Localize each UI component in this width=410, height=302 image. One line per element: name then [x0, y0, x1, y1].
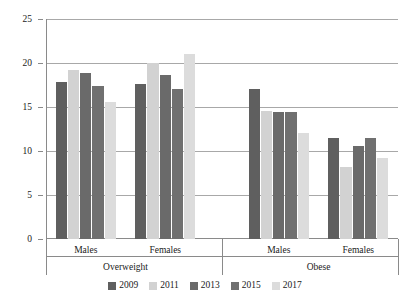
bar-2009-males-0: [56, 82, 67, 239]
y-axis-tick-label: 25: [23, 14, 33, 24]
x-axis-category-label: Males: [239, 245, 319, 255]
legend-swatch-icon: [149, 282, 157, 290]
y-axis-tick-label: 20: [23, 58, 33, 68]
x-axis-category-label: Females: [126, 245, 206, 255]
grouped-bar-chart: 0510152025 MalesFemalesMalesFemalesOverw…: [0, 0, 410, 302]
bar-2013-males-2: [273, 112, 284, 239]
y-axis-tick-mark: [38, 63, 43, 64]
bars-layer: [46, 19, 398, 239]
bar-2011-males-2: [261, 111, 272, 239]
y-axis-tick-mark: [38, 195, 43, 196]
legend-label: 2011: [160, 281, 179, 291]
legend-item-2009[interactable]: 2009: [108, 281, 138, 291]
x-axis-section-label: Obese: [239, 262, 398, 272]
bar-2017-males-2: [298, 133, 309, 239]
y-axis-tick-mark: [38, 151, 43, 152]
y-axis-tick-mark: [38, 239, 43, 240]
bar-2015-males-2: [285, 112, 296, 239]
axis-row-rule: [46, 256, 398, 257]
legend-label: 2017: [283, 281, 302, 291]
legend-item-2013[interactable]: 2013: [190, 281, 220, 291]
bar-2015-females-3: [365, 138, 376, 239]
legend-swatch-icon: [190, 282, 198, 290]
bar-2013-females-1: [160, 75, 171, 239]
y-axis-tick-mark: [38, 107, 43, 108]
bar-2015-females-1: [172, 89, 183, 239]
x-axis-category-label: Males: [46, 245, 126, 255]
axis-section-divider-1: [222, 239, 223, 275]
bar-2013-females-3: [353, 146, 364, 239]
legend-swatch-icon: [231, 282, 239, 290]
legend-item-2011[interactable]: 2011: [149, 281, 179, 291]
bar-2009-males-2: [249, 89, 260, 239]
x-axis-section-label: Overweight: [46, 262, 205, 272]
legend-label: 2015: [242, 281, 261, 291]
x-axis-category-label: Females: [319, 245, 399, 255]
y-axis-tick-label: 5: [27, 190, 32, 200]
axis-section-divider-0: [46, 239, 47, 275]
bar-2009-females-3: [328, 138, 339, 239]
bar-2017-females-1: [184, 54, 195, 239]
y-axis-tick-label: 10: [23, 146, 33, 156]
chart-legend: 20092011201320152017: [0, 281, 410, 291]
legend-swatch-icon: [272, 282, 280, 290]
legend-item-2017[interactable]: 2017: [272, 281, 302, 291]
bar-2011-females-1: [147, 63, 158, 239]
bar-2017-females-3: [377, 158, 388, 239]
legend-label: 2009: [119, 281, 138, 291]
bar-2011-males-0: [68, 70, 79, 239]
legend-label: 2013: [201, 281, 220, 291]
y-axis: 0510152025: [0, 19, 42, 239]
bar-2011-females-3: [340, 167, 351, 239]
y-axis-tick-label: 0: [27, 234, 32, 244]
legend-swatch-icon: [108, 282, 116, 290]
legend-item-2015[interactable]: 2015: [231, 281, 261, 291]
bar-2013-males-0: [80, 73, 91, 239]
y-axis-tick-label: 15: [23, 102, 33, 112]
y-axis-tick-mark: [38, 19, 43, 20]
bar-2017-males-0: [105, 102, 116, 239]
bar-2009-females-1: [135, 84, 146, 239]
axis-section-divider-2: [398, 239, 399, 275]
bar-2015-males-0: [92, 86, 103, 239]
